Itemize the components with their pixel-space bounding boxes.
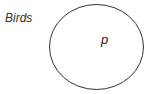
set-label-birds: Birds (5, 11, 32, 25)
set-birds-ellipse (50, 5, 144, 90)
element-label-p: p (101, 33, 108, 47)
